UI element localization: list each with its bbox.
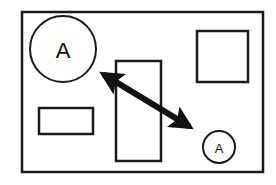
tall-rect-center — [116, 61, 161, 161]
small-rect-left — [39, 108, 93, 134]
large-circle-node: A — [30, 16, 96, 82]
small-circle-node: A — [203, 131, 235, 163]
large-circle-label: A — [56, 38, 71, 63]
diagram-canvas: A A — [0, 0, 276, 185]
square-top-right — [197, 31, 248, 82]
small-circle-label: A — [215, 141, 224, 156]
